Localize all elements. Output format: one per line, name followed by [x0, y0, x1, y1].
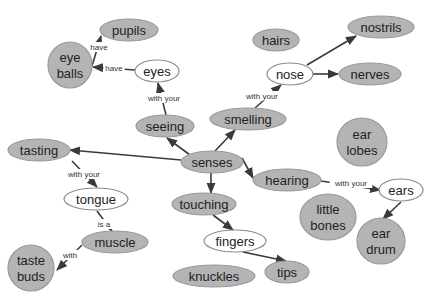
- arrow-icon: [215, 130, 235, 151]
- edge-senses-to-tasting: [70, 150, 181, 160]
- node-hearing[interactable]: hearing: [253, 169, 321, 191]
- edge-muscle-to-taste-buds: with: [57, 245, 82, 270]
- node-label: nose: [276, 67, 304, 82]
- edge-tongue-to-muscle: is a: [93, 211, 114, 231]
- edge-ears-to-ear-drum: [383, 202, 401, 219]
- node-label: senses: [191, 155, 233, 170]
- node-tasting[interactable]: tasting: [8, 139, 70, 161]
- node-tongue[interactable]: tongue: [64, 188, 128, 210]
- node-ear-lobes[interactable]: earlobes: [337, 118, 387, 166]
- node-ears[interactable]: ears: [379, 179, 423, 201]
- node-little-bones[interactable]: littlebones: [300, 194, 356, 240]
- node-knuckles[interactable]: knuckles: [173, 265, 255, 287]
- node-label: hairs: [262, 33, 291, 48]
- node-label: tips: [277, 265, 298, 280]
- arrow-icon: [213, 215, 233, 230]
- node-label: touching: [179, 197, 228, 212]
- node-eye-balls[interactable]: eyeballs: [48, 42, 92, 88]
- node-ear-drum[interactable]: eardrum: [357, 218, 405, 264]
- node-smelling[interactable]: smelling: [210, 108, 286, 130]
- node-label: ear: [353, 127, 372, 142]
- node-label: knuckles: [189, 269, 240, 284]
- edge-label: with your: [334, 179, 367, 188]
- node-label: ears: [388, 183, 414, 198]
- node-label: seeing: [146, 119, 184, 134]
- node-label: taste: [17, 253, 45, 268]
- arrow-icon: [70, 150, 181, 160]
- node-fingers[interactable]: fingers: [204, 230, 266, 252]
- node-label: smelling: [224, 112, 272, 127]
- edge-smelling-to-nose: with your: [241, 85, 284, 108]
- edge-tasting-to-tongue: with your: [63, 161, 106, 187]
- arrow-icon: [307, 36, 356, 65]
- concept-map-canvas: havehavewith yourwith yourwith youris aw…: [0, 0, 433, 304]
- edge-label: with your: [245, 92, 278, 101]
- arrow-icon: [243, 252, 286, 261]
- node-label: pupils: [112, 23, 146, 38]
- node-label: tongue: [76, 192, 116, 207]
- node-nose[interactable]: nose: [267, 63, 313, 85]
- edge-touching-to-fingers: [213, 215, 233, 230]
- node-label: bones: [310, 218, 346, 233]
- node-label: lobes: [346, 143, 378, 158]
- edge-senses-to-hearing: [242, 158, 253, 178]
- edge-fingers-to-tips: [243, 252, 286, 261]
- node-label: drum: [366, 242, 396, 257]
- node-muscle[interactable]: muscle: [82, 231, 148, 253]
- node-seeing[interactable]: seeing: [136, 115, 194, 137]
- edge-seeing-to-eyes: with your: [143, 83, 186, 115]
- edge-eyes-to-eye-balls: have: [93, 63, 135, 73]
- arrow-icon: [167, 138, 190, 155]
- node-label: muscle: [94, 235, 135, 250]
- node-label: balls: [57, 66, 84, 81]
- node-label: nostrils: [360, 20, 402, 35]
- arrow-icon: [242, 158, 253, 178]
- edge-label: with your: [67, 170, 100, 179]
- node-label: fingers: [215, 234, 255, 249]
- node-hairs[interactable]: hairs: [253, 29, 299, 51]
- node-label: ear: [372, 226, 391, 241]
- edge-label: with: [62, 251, 77, 260]
- edge-hearing-to-ears: with your: [321, 178, 380, 190]
- edge-senses-to-seeing: [167, 138, 190, 155]
- node-touching[interactable]: touching: [172, 193, 236, 215]
- edge-nose-to-nostrils: [307, 36, 356, 65]
- node-pupils[interactable]: pupils: [100, 19, 158, 41]
- node-taste-buds[interactable]: tastebuds: [8, 245, 54, 291]
- edge-label: have: [90, 43, 108, 52]
- arrow-icon: [383, 202, 401, 219]
- node-label: tasting: [20, 143, 58, 158]
- node-nerves[interactable]: nerves: [339, 63, 401, 85]
- edge-label: have: [105, 64, 123, 73]
- edge-label: with your: [147, 94, 180, 103]
- edge-label: is a: [98, 220, 111, 229]
- node-label: buds: [17, 269, 46, 284]
- node-label: eyes: [143, 64, 171, 79]
- node-label: hearing: [265, 173, 308, 188]
- node-nostrils[interactable]: nostrils: [348, 16, 414, 38]
- node-label: eye: [60, 50, 81, 65]
- node-label: little: [316, 202, 339, 217]
- edge-senses-to-smelling: [215, 130, 235, 151]
- node-senses[interactable]: senses: [181, 151, 243, 173]
- node-tips[interactable]: tips: [265, 261, 309, 283]
- node-eyes[interactable]: eyes: [135, 60, 179, 82]
- node-label: nerves: [350, 67, 390, 82]
